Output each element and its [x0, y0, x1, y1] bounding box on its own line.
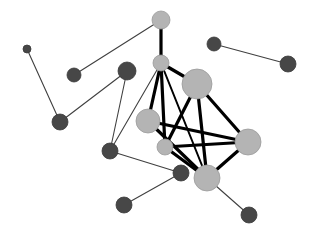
node-d1	[23, 45, 31, 53]
node-d9	[207, 37, 221, 51]
node-d8	[241, 207, 257, 223]
node-B	[153, 55, 169, 71]
edge-A-d2	[74, 20, 161, 75]
edge-B-d5	[110, 63, 161, 151]
node-D	[136, 109, 160, 133]
edge-d9-d10	[214, 44, 288, 64]
node-C	[182, 69, 212, 99]
edge-d1-d4	[27, 49, 60, 122]
edge-d3-d5	[110, 71, 127, 151]
node-A	[152, 11, 170, 29]
node-G	[194, 165, 220, 191]
node-d2	[67, 68, 81, 82]
node-d6	[173, 165, 189, 181]
node-d5	[102, 143, 118, 159]
node-d7	[116, 197, 132, 213]
edge-d6-d7	[124, 173, 181, 205]
network-graph	[0, 0, 309, 236]
node-d4	[52, 114, 68, 130]
edge-d5-d6	[110, 151, 181, 173]
node-F	[235, 129, 261, 155]
node-E	[157, 139, 173, 155]
node-d3	[118, 62, 136, 80]
node-d10	[280, 56, 296, 72]
